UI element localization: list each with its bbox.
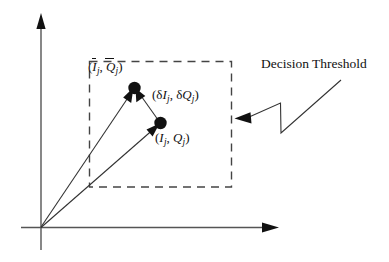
horizontal-axis-arrowhead bbox=[262, 223, 279, 233]
mean-point-dot bbox=[128, 82, 140, 94]
mean-label-var2: Q bbox=[106, 60, 115, 73]
decision-threshold-leader bbox=[235, 80, 342, 133]
sample-point-label: (Ij, Qj) bbox=[155, 131, 190, 147]
sample-label-close: ) bbox=[185, 130, 189, 145]
error-vector-label: (δIj, δQj) bbox=[152, 88, 199, 104]
vertical-axis-arrowhead bbox=[36, 13, 45, 29]
signal-constellation-diagram: (Ij, Qj) (δIj, δQj) (Ij, Qj) Decision Th… bbox=[0, 0, 389, 262]
mean-label-close: ) bbox=[118, 59, 122, 74]
mean-label-var1: I bbox=[92, 60, 96, 73]
sample-label-var2: Q bbox=[173, 130, 182, 145]
diagram-canvas bbox=[0, 0, 389, 262]
decision-threshold-leader-line bbox=[248, 80, 341, 133]
decision-threshold-label: Decision Threshold bbox=[261, 57, 367, 71]
error-label-var2: Q bbox=[182, 87, 191, 102]
decision-threshold-leader-arrowhead bbox=[235, 112, 252, 123]
error-label-close: ) bbox=[194, 87, 198, 102]
sample-point-dot bbox=[154, 117, 166, 129]
mean-vector bbox=[41, 88, 134, 228]
mean-point-label: (Ij, Qj) bbox=[88, 60, 123, 76]
